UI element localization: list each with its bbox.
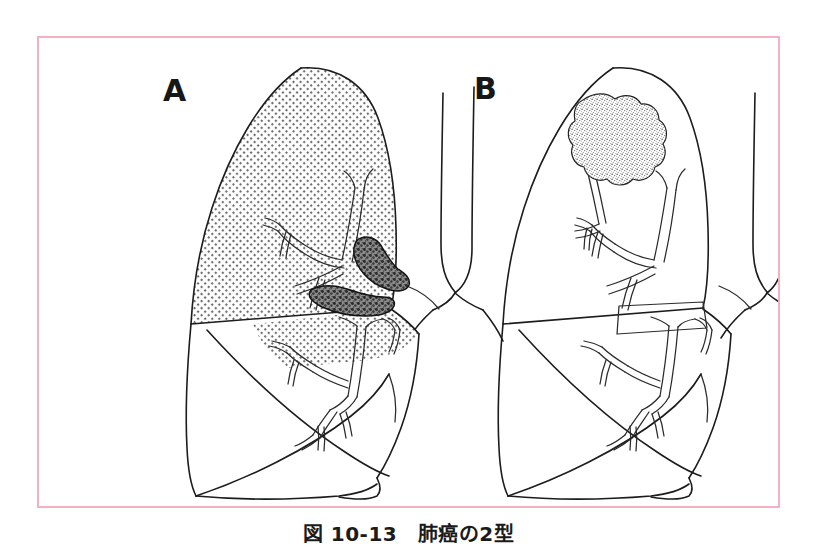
figure-caption: 図 10-13 肺癌の2型 xyxy=(0,518,817,547)
panel-b-lateral-border xyxy=(498,324,508,496)
panel-b-costophrenic-sweep xyxy=(508,374,701,496)
panel-label-a: A xyxy=(163,76,187,106)
panel-b-oblique-fissure xyxy=(519,330,701,476)
lung-diagram-svg xyxy=(39,38,778,506)
panel-a-costophrenic-sweep xyxy=(196,374,389,496)
panel-a-lateral-border xyxy=(186,324,196,496)
panel-b-lower-bronchial-tree xyxy=(581,317,712,451)
panel-a-drawing xyxy=(169,53,503,499)
figure-root: A B 図 10-13 肺癌の2型 xyxy=(0,0,817,552)
figure-illustration xyxy=(39,38,778,506)
panel-b-drawing xyxy=(498,68,778,499)
panel-a-trachea xyxy=(433,87,483,310)
panel-b-posterior-border xyxy=(689,334,731,478)
panel-b-trachea xyxy=(745,87,778,310)
panel-b-lower-lobes xyxy=(498,302,731,499)
panel-b-lower-fissure-detail xyxy=(701,374,708,422)
panel-label-b: B xyxy=(474,74,497,104)
panel-a-lower-fissure-detail xyxy=(389,374,396,422)
